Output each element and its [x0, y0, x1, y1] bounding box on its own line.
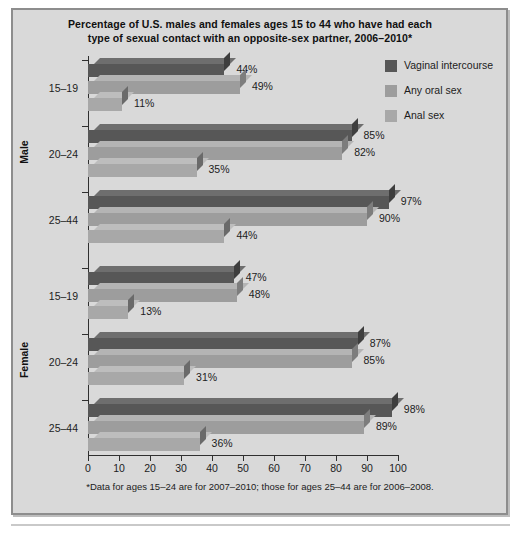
bar-value-label: 36%: [212, 437, 233, 449]
panel-label-male: Male: [18, 122, 30, 182]
bar: [88, 164, 197, 177]
bar-top-face: [94, 124, 364, 130]
bar-top-face: [94, 224, 236, 230]
chart-title-line-1: Percentage of U.S. males and females age…: [68, 18, 432, 30]
bar-top-face: [94, 332, 370, 338]
bar-face: [88, 306, 128, 319]
x-axis-tick: [367, 456, 368, 461]
legend-label-any-oral-sex: Any oral sex: [404, 84, 462, 96]
legend-label-anal-sex: Anal sex: [404, 109, 444, 121]
x-axis-tick: [305, 456, 306, 461]
bar-value-label: 47%: [246, 271, 267, 283]
x-axis-tick: [88, 456, 89, 461]
bar-face: [88, 98, 122, 111]
legend-item-vaginal-intercourse[interactable]: Vaginal intercourse: [385, 58, 505, 83]
bar-top-face: [94, 158, 209, 164]
bar: [88, 98, 122, 111]
legend: Vaginal intercourse Any oral sex Anal se…: [385, 58, 505, 133]
bar-top-face: [94, 58, 236, 64]
bar-top-face: [94, 266, 246, 272]
bar-top-face: [94, 141, 354, 147]
bar-value-label: 48%: [249, 288, 270, 300]
x-axis-tick: [398, 456, 399, 461]
x-axis-tick: [150, 456, 151, 461]
chart-footnote: *Data for ages 15–24 are for 2007–2010; …: [30, 481, 490, 492]
bar-side-face: [392, 392, 398, 411]
x-axis-tick-label: 100: [378, 462, 418, 474]
category-label-female-0: 15–19: [18, 290, 78, 302]
bar-top-face: [94, 190, 401, 196]
x-axis-tick: [119, 456, 120, 461]
chart-title-line-2: type of sexual contact with an opposite-…: [88, 32, 412, 44]
bar: [88, 372, 184, 385]
bar-top-face: [94, 283, 249, 289]
bar-value-label: 13%: [140, 305, 161, 317]
chart-title: Percentage of U.S. males and females age…: [40, 18, 460, 45]
x-axis-tick: [243, 456, 244, 461]
bar-value-label: 44%: [236, 63, 257, 75]
bar-top-face: [94, 207, 379, 213]
bar-top-face: [94, 349, 364, 355]
bar-value-label: 87%: [370, 337, 391, 349]
bar-value-label: 97%: [401, 195, 422, 207]
bar-value-label: 89%: [376, 420, 397, 432]
bar-face: [88, 230, 224, 243]
bar-value-label: 49%: [252, 80, 273, 92]
bar-value-label: 85%: [364, 129, 385, 141]
legend-label-vaginal-intercourse: Vaginal intercourse: [404, 59, 493, 71]
bar-side-face: [224, 52, 230, 71]
bar-value-label: 90%: [379, 212, 400, 224]
legend-swatch-icon-vaginal-intercourse: [385, 60, 397, 72]
bar-side-face: [128, 294, 134, 313]
bar: [88, 306, 128, 319]
x-axis-tick: [336, 456, 337, 461]
bar-value-label: 85%: [364, 354, 385, 366]
bar-top-face: [94, 75, 252, 81]
bar-side-face: [358, 326, 364, 345]
bar-side-face: [352, 118, 358, 137]
figure-root: Percentage of U.S. males and females age…: [0, 0, 521, 533]
plot-area: 44%49%11%85%82%35%97%90%44%47%48%13%87%8…: [88, 56, 398, 455]
legend-item-anal-sex[interactable]: Anal sex: [385, 108, 505, 133]
category-label-male-0: 15–19: [18, 82, 78, 94]
bar-value-label: 44%: [236, 229, 257, 241]
bar-face: [88, 438, 200, 451]
legend-swatch-icon-any-oral-sex: [385, 85, 397, 97]
bar-side-face: [234, 260, 240, 279]
bar-side-face: [389, 184, 395, 203]
bar: [88, 438, 200, 451]
category-label-male-2: 25–44: [18, 214, 78, 226]
bar-face: [88, 372, 184, 385]
bar-side-face: [237, 277, 243, 296]
legend-swatch-icon-anal-sex: [385, 110, 397, 122]
x-axis-tick: [274, 456, 275, 461]
bar-top-face: [94, 92, 134, 98]
legend-item-any-oral-sex[interactable]: Any oral sex: [385, 83, 505, 108]
bar-value-label: 35%: [209, 163, 230, 175]
bar-value-label: 82%: [354, 146, 375, 158]
bar-value-label: 31%: [196, 371, 217, 383]
bar-top-face: [94, 415, 376, 421]
bar: [88, 230, 224, 243]
x-axis-tick: [181, 456, 182, 461]
bar-top-face: [94, 366, 196, 372]
bottom-rule: [11, 524, 510, 526]
bar-value-label: 98%: [404, 403, 425, 415]
bar-face: [88, 164, 197, 177]
bar-side-face: [224, 218, 230, 237]
category-label-female-2: 25–44: [18, 422, 78, 434]
bar-value-label: 11%: [134, 97, 154, 109]
bar-top-face: [94, 398, 404, 404]
panel-label-female: Female: [18, 330, 30, 390]
x-axis-tick: [212, 456, 213, 461]
bar-top-face: [94, 432, 212, 438]
